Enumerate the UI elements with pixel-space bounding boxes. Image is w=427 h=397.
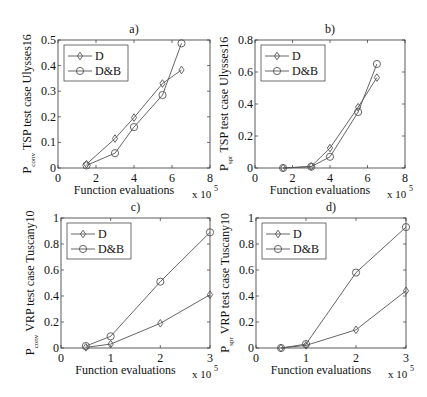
y-tick-label: 0.1: [41, 135, 56, 149]
x-axis-exponent: 5: [409, 184, 413, 193]
y-label-subscript: spr: [227, 337, 235, 346]
y-label-rest: TSP test case Ulysses16: [217, 37, 231, 153]
y-tick-label: 0.6: [44, 263, 59, 277]
y-tick-label: 0.4: [44, 289, 59, 303]
series-line: [283, 78, 377, 168]
series-line: [281, 291, 406, 348]
y-tick-label: 0.8: [44, 237, 59, 251]
legend-label: D&B: [292, 64, 318, 78]
x-axis-label: Function evaluations: [271, 363, 372, 377]
legend-label: D: [292, 49, 301, 63]
y-axis-label: PsprVRP test case Tuscany10: [217, 213, 235, 353]
y-label-rest: VRP test case Tuscany10: [23, 210, 37, 331]
x-axis-exponent: 5: [410, 364, 414, 373]
data-point-diamond-marker: [179, 66, 184, 74]
figure: a)0246800.10.20.30.40.5Function evaluati…: [0, 0, 427, 397]
subplot-a: a)0246800.10.20.30.40.5Function evaluati…: [19, 22, 218, 200]
legend-label: D&B: [98, 242, 124, 256]
legend-label: D: [95, 49, 104, 63]
x-tick-label: 3: [403, 351, 409, 365]
y-tick-label: 0.4: [238, 97, 253, 111]
y-tick-label: 0.2: [41, 110, 56, 124]
x-axis-multiplier: x 10: [388, 368, 408, 380]
y-label-subscript: conv: [29, 153, 37, 167]
y-label-rest: VRP test case Tuscany10: [218, 213, 232, 334]
x-axis-label: Function evaluations: [74, 183, 175, 197]
y-tick-label: 0.2: [44, 315, 59, 329]
x-axis-exponent: 5: [214, 184, 218, 193]
legend: DD&B: [261, 45, 325, 81]
legend-label: D: [98, 227, 107, 241]
y-tick-label: 1: [53, 211, 59, 225]
y-label-subscript: conv: [32, 334, 40, 348]
series-d: [278, 287, 408, 352]
y-tick-label: 0: [53, 341, 59, 355]
subplot-title: b): [325, 22, 335, 36]
y-axis-label: PconvTSP test case Ulysses16: [19, 34, 37, 174]
x-axis-label: Function evaluations: [270, 183, 371, 197]
y-tick-label: 0: [248, 341, 254, 355]
y-tick-label: 0: [50, 161, 56, 175]
y-label-main: P: [19, 167, 34, 174]
subplot-d: d)012300.20.40.60.81Function evaluations…: [217, 200, 414, 380]
y-tick-label: 0.4: [239, 289, 254, 303]
y-label-subscript: spr: [226, 155, 234, 164]
legend-label: D: [293, 227, 302, 241]
subplot-b: b)0246800.20.40.60.8Function evaluations…: [216, 22, 413, 200]
legend: DD&B: [262, 223, 326, 259]
y-tick-label: 0: [247, 161, 253, 175]
series-line: [87, 70, 182, 164]
series-d: [83, 291, 212, 351]
legend-label: D&B: [293, 242, 319, 256]
y-label-main: P: [22, 348, 37, 355]
x-axis-multiplier: x 10: [192, 188, 212, 200]
subplot-title: c): [131, 200, 140, 214]
y-tick-label: 0.8: [239, 237, 254, 251]
x-tick-label: 8: [402, 171, 408, 185]
y-tick-label: 1: [248, 211, 254, 225]
y-tick-label: 0.3: [41, 84, 56, 98]
x-axis-exponent: 5: [214, 364, 218, 373]
y-tick-label: 0.2: [238, 129, 253, 143]
y-tick-label: 0.4: [41, 59, 56, 73]
subplot-title: d): [326, 200, 336, 214]
y-label-rest: TSP test case Ulysses16: [20, 34, 34, 150]
legend-label: D&B: [95, 64, 121, 78]
y-axis-label: PconvVRP test case Tuscany10: [22, 210, 40, 355]
legend: DD&B: [67, 223, 131, 259]
x-tick-label: 3: [207, 351, 213, 365]
subplot-c: c)012300.20.40.60.81Function evaluations…: [22, 200, 218, 380]
legend: DD&B: [64, 45, 128, 81]
y-tick-label: 0.6: [239, 263, 254, 277]
subplot-title: a): [129, 22, 138, 36]
x-axis-label: Function evaluations: [75, 363, 176, 377]
y-tick-label: 0.6: [238, 65, 253, 79]
y-tick-label: 0.2: [239, 315, 254, 329]
y-tick-label: 0.8: [238, 33, 253, 47]
series-line: [86, 295, 210, 348]
x-axis-multiplier: x 10: [192, 368, 212, 380]
x-tick-label: 8: [207, 171, 213, 185]
y-label-main: P: [216, 164, 231, 171]
y-label-main: P: [217, 346, 232, 353]
y-axis-label: PsprTSP test case Ulysses16: [216, 37, 234, 172]
series-d: [84, 66, 184, 168]
y-tick-label: 0.5: [41, 33, 56, 47]
x-axis-multiplier: x 10: [387, 188, 407, 200]
